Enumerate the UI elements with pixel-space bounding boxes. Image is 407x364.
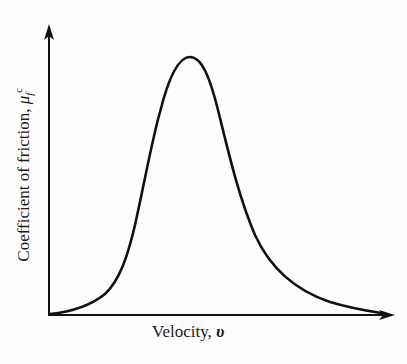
friction-velocity-figure: Coefficient of friction, μfc Velocity, υ (0, 0, 407, 364)
friction-curve (50, 57, 381, 314)
plot-area (0, 0, 407, 364)
upsilon-symbol: υ (216, 322, 224, 341)
y-axis-label: Coefficient of friction, μfc (13, 88, 35, 261)
y-axis-label-text: Coefficient of friction, (14, 104, 33, 261)
mu-superscript: c (13, 88, 24, 92)
x-axis-label: Velocity, υ (152, 322, 224, 342)
x-axis-label-text: Velocity, (152, 322, 216, 341)
mu-symbol: μ (14, 96, 33, 105)
mu-subscript: f (23, 93, 35, 96)
